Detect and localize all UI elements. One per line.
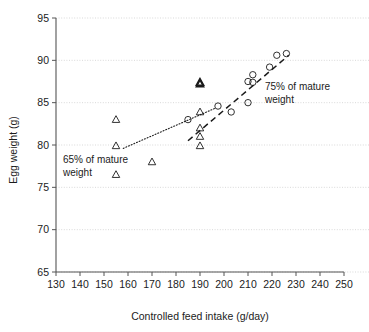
x-tick-label-210: 210 (239, 278, 257, 290)
chart-container: 130140150160170180190200210220230240250 … (0, 0, 369, 332)
x-tick-label-250: 250 (335, 278, 353, 290)
annotation-75-percent-line2: weight (264, 94, 294, 105)
y-tick-label-75: 75 (37, 181, 49, 193)
x-tick-label-150: 150 (95, 278, 113, 290)
y-tick-label-90: 90 (37, 54, 49, 66)
x-tick-label-240: 240 (311, 278, 329, 290)
x-tick-label-200: 200 (215, 278, 233, 290)
y-tick-label-70: 70 (37, 223, 49, 235)
x-axis-title: Controlled feed intake (g/day) (131, 310, 269, 322)
y-tick-label-95: 95 (37, 12, 49, 24)
x-tick-label-160: 160 (119, 278, 137, 290)
x-tick-label-230: 230 (287, 278, 305, 290)
scatter-plot: 130140150160170180190200210220230240250 … (0, 0, 369, 332)
x-tick-label-220: 220 (263, 278, 281, 290)
y-tick-label-65: 65 (37, 266, 49, 278)
annotation-75-percent-line1: 75% of mature (265, 81, 330, 92)
annotation-65-percent-line2: weight (62, 167, 92, 178)
y-tick-label-85: 85 (37, 96, 49, 108)
x-tick-label-170: 170 (143, 278, 161, 290)
y-tick-label-80: 80 (37, 139, 49, 151)
x-tick-label-140: 140 (71, 278, 89, 290)
y-axis-title: Egg weight (g) (7, 116, 19, 184)
annotation-65-percent-line1: 65% of mature (63, 154, 128, 165)
x-tick-label-190: 190 (191, 278, 209, 290)
x-tick-label-130: 130 (47, 278, 65, 290)
x-tick-label-180: 180 (167, 278, 185, 290)
